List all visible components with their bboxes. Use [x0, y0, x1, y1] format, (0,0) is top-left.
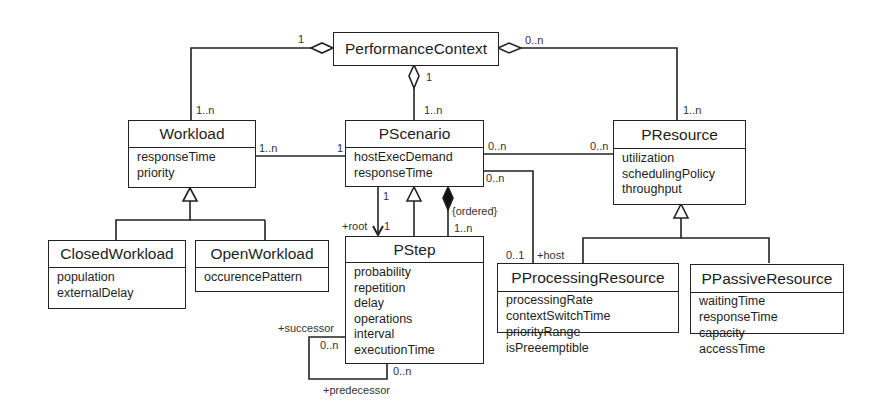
attribute: executionTime: [354, 343, 483, 359]
class-pstep[interactable]: PStep probability repetition delay opera…: [345, 236, 484, 364]
attribute: probability: [354, 265, 483, 281]
aggregation-diamond-icon: [409, 65, 419, 88]
multiplicity-label: 1..n: [454, 222, 472, 234]
class-performance-context[interactable]: PerformanceContext: [333, 32, 499, 66]
class-name: PPassiveResource: [691, 265, 843, 293]
generalization-workload: [116, 201, 190, 240]
class-name: PProcessingResource: [498, 264, 678, 292]
multiplicity-label: 1: [426, 71, 432, 83]
role-label: +predecessor: [323, 384, 390, 396]
generalization-triangle-icon: [183, 188, 197, 201]
attribute: priorityRange: [506, 324, 678, 340]
class-open-workload[interactable]: OpenWorkload occurencePattern: [195, 240, 329, 292]
multiplicity-label: 1: [337, 142, 343, 154]
class-ppassive-resource[interactable]: PPassiveResource waitingTime responseTim…: [690, 264, 844, 334]
attribute: accessTime: [699, 341, 843, 357]
multiplicity-label: 1..n: [196, 104, 214, 116]
attribute: occurencePattern: [204, 270, 328, 286]
class-name: PStep: [346, 237, 483, 263]
class-presource[interactable]: PResource utilization schedulingPolicy t…: [613, 120, 746, 205]
multiplicity-label: 1: [384, 220, 390, 232]
class-closed-workload[interactable]: ClosedWorkload population externalDelay: [48, 240, 186, 309]
generalization-triangle-icon: [407, 187, 421, 201]
multiplicity-label: 0..n: [488, 140, 506, 152]
generalization-resource: [583, 218, 681, 263]
attribute: hostExecDemand: [354, 150, 483, 166]
class-name: PResource: [614, 121, 745, 149]
class-name: PScenario: [346, 121, 483, 148]
attribute: responseTime: [699, 309, 843, 325]
multiplicity-label: 0..n: [320, 339, 338, 351]
class-name: PerformanceContext: [334, 33, 498, 65]
class-name: Workload: [129, 121, 255, 148]
class-name: ClosedWorkload: [49, 241, 185, 268]
multiplicity-label: 1: [298, 33, 304, 45]
multiplicity-label: 1..n: [424, 104, 442, 116]
association-pc-resource: [521, 48, 677, 120]
multiplicity-label: 0..n: [486, 172, 504, 184]
multiplicity-label: 1..n: [683, 104, 701, 116]
attribute: waitingTime: [699, 293, 843, 309]
role-label: +successor: [278, 322, 334, 334]
attribute: delay: [354, 296, 483, 312]
multiplicity-label: 0..n: [590, 140, 608, 152]
attribute: repetition: [354, 281, 483, 297]
multiplicity-label: 0..n: [525, 34, 543, 46]
multiplicity-label: 0..n: [393, 365, 411, 377]
attribute: responseTime: [137, 150, 255, 166]
attribute: processingRate: [506, 292, 678, 308]
attribute: isPreeemptible: [506, 340, 678, 356]
aggregation-diamond-icon: [311, 43, 333, 53]
class-name: OpenWorkload: [196, 241, 328, 268]
aggregation-diamond-icon: [498, 43, 521, 53]
attribute: schedulingPolicy: [622, 167, 745, 183]
class-pscenario[interactable]: PScenario hostExecDemand responseTime: [345, 120, 484, 187]
multiplicity-label: 1..n: [259, 142, 277, 154]
class-workload[interactable]: Workload responseTime priority: [128, 120, 256, 188]
class-pprocessing-resource[interactable]: PProcessingResource processingRate conte…: [497, 263, 679, 333]
multiplicity-label: 1: [383, 190, 389, 202]
attribute: priority: [137, 166, 255, 182]
generalization-triangle-icon: [674, 204, 688, 218]
attribute: utilization: [622, 151, 745, 167]
attribute: operations: [354, 312, 483, 328]
attribute: capacity: [699, 325, 843, 341]
attribute: interval: [354, 327, 483, 343]
attribute: throughput: [622, 182, 745, 198]
attribute: externalDelay: [57, 286, 185, 302]
attribute: responseTime: [354, 166, 483, 182]
role-label: +host: [537, 249, 564, 261]
constraint-label: {ordered}: [452, 205, 497, 217]
attribute: contextSwitchTime: [506, 308, 678, 324]
role-label: +root: [342, 220, 367, 232]
multiplicity-label: 0..1: [506, 249, 524, 261]
attribute: population: [57, 270, 185, 286]
